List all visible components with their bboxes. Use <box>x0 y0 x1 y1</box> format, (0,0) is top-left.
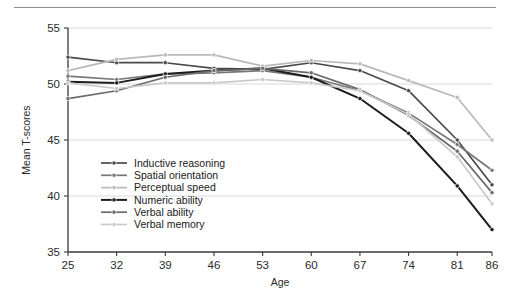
y-tick-label: 55 <box>47 22 60 34</box>
y-tick-label: 40 <box>47 190 60 202</box>
legend-label: Perceptual speed <box>134 181 216 193</box>
legend-label: Verbal memory <box>134 218 205 230</box>
chart-figure: 5550454035 25323946536067748186 Mean T-s… <box>0 0 508 306</box>
gridlines <box>68 28 492 196</box>
series-numeric-ability <box>66 66 494 231</box>
y-tick-labels: 5550454035 <box>47 22 60 258</box>
y-tick-label: 50 <box>47 78 60 90</box>
legend-item-inductive-reasoning[interactable]: Inductive reasoning <box>101 157 225 169</box>
legend-item-spatial-orientation[interactable]: Spatial orientation <box>101 169 218 181</box>
series-perceptual-speed <box>66 53 494 142</box>
x-tick-label: 46 <box>208 259 221 271</box>
legend-swatch-marker <box>112 198 116 202</box>
y-axis-title: Mean T-scores <box>20 105 32 174</box>
legend-item-numeric-ability[interactable]: Numeric ability <box>101 194 204 206</box>
x-tick-label: 86 <box>486 259 499 271</box>
x-tick-labels: 25323946536067748186 <box>62 259 499 271</box>
x-tick-label: 67 <box>354 259 367 271</box>
y-tick-label: 45 <box>47 134 60 146</box>
legend-swatch-marker <box>112 186 116 190</box>
legend-swatch-marker <box>112 173 116 177</box>
legend-item-verbal-memory[interactable]: Verbal memory <box>101 218 205 230</box>
series-verbal-memory <box>66 77 494 206</box>
legend-item-verbal-ability[interactable]: Verbal ability <box>101 206 194 218</box>
legend-item-perceptual-speed[interactable]: Perceptual speed <box>101 181 216 193</box>
series-lines <box>66 53 494 232</box>
series-verbal-ability <box>66 66 494 195</box>
y-tick-label: 35 <box>47 246 60 258</box>
chart-legend: Inductive reasoningSpatial orientationPe… <box>101 157 225 231</box>
legend-label: Numeric ability <box>134 194 204 206</box>
legend-swatch-marker <box>112 161 116 165</box>
x-tick-label: 74 <box>402 259 415 271</box>
line-chart: 5550454035 25323946536067748186 Mean T-s… <box>0 0 508 306</box>
series-inductive-reasoning <box>66 55 494 187</box>
x-tick-label: 32 <box>110 259 123 271</box>
x-tick-label: 39 <box>159 259 172 271</box>
legend-swatch-marker <box>112 210 116 214</box>
legend-label: Verbal ability <box>134 206 194 218</box>
legend-label: Spatial orientation <box>134 169 218 181</box>
legend-swatch-marker <box>112 222 116 226</box>
x-tick-label: 53 <box>256 259 269 271</box>
x-tick-label: 81 <box>451 259 464 271</box>
x-axis-title: Age <box>271 276 290 288</box>
x-tick-label: 60 <box>305 259 318 271</box>
legend-label: Inductive reasoning <box>134 157 225 169</box>
x-tick-label: 25 <box>62 259 75 271</box>
